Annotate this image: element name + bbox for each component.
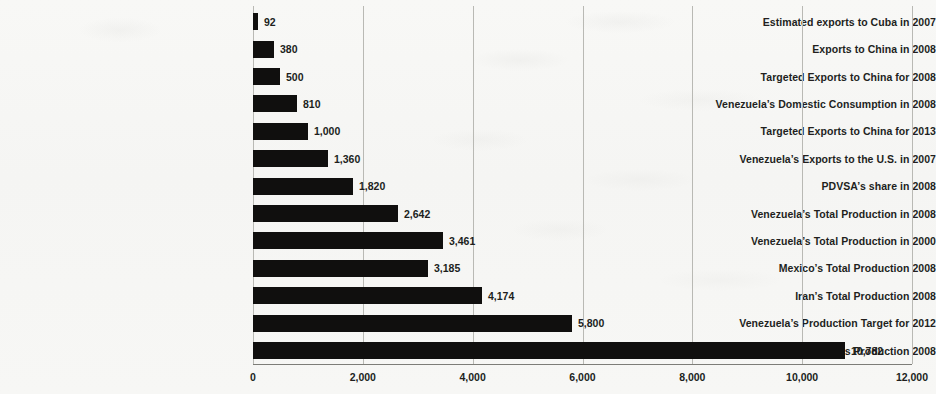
bar [253, 287, 482, 304]
x-tick-label: 8,000 [679, 372, 705, 383]
bar-value-label: 2,642 [404, 209, 430, 220]
bar-value-label: 4,174 [488, 291, 514, 302]
bar-value-label: 92 [264, 17, 276, 28]
bar [253, 205, 398, 222]
x-axis-line [253, 364, 912, 365]
x-tick-label: 10,000 [786, 372, 818, 383]
bar [253, 68, 280, 85]
gridline-10000 [802, 6, 803, 364]
bar-value-label: 500 [286, 72, 304, 83]
gridline-8000 [692, 6, 693, 364]
bar-value-label: 810 [303, 99, 321, 110]
bar-value-label: 3,185 [434, 263, 460, 274]
horizontal-bar-chart: Estimated exports to Cuba in 2007Exports… [0, 0, 936, 394]
bar-value-label: 5,800 [578, 318, 604, 329]
bar [253, 41, 274, 58]
x-tick-label: 0 [250, 372, 256, 383]
bar [253, 342, 845, 359]
bar [253, 150, 328, 167]
x-tick-label: 12,000 [896, 372, 928, 383]
bar [253, 178, 353, 195]
bar-value-label: 1,360 [334, 154, 360, 165]
bar-value-label: 1,820 [359, 181, 385, 192]
bar-value-label: 3,461 [449, 236, 475, 247]
gridline-6000 [583, 6, 584, 364]
bar [253, 13, 258, 30]
x-tick-label: 2,000 [350, 372, 376, 383]
bar-value-label: 10,782 [851, 346, 883, 357]
bar [253, 232, 443, 249]
bar-value-label: 1,000 [314, 126, 340, 137]
bar [253, 123, 308, 140]
x-tick-label: 4,000 [460, 372, 486, 383]
bar [253, 260, 428, 277]
x-tick-label: 6,000 [569, 372, 595, 383]
plot-area: 923805008101,0001,3601,8202,6423,4613,18… [253, 6, 912, 364]
gridline-4000 [473, 6, 474, 364]
bar [253, 95, 297, 112]
gridline-12000 [912, 6, 913, 364]
bar [253, 315, 572, 332]
bar-value-label: 380 [280, 44, 298, 55]
